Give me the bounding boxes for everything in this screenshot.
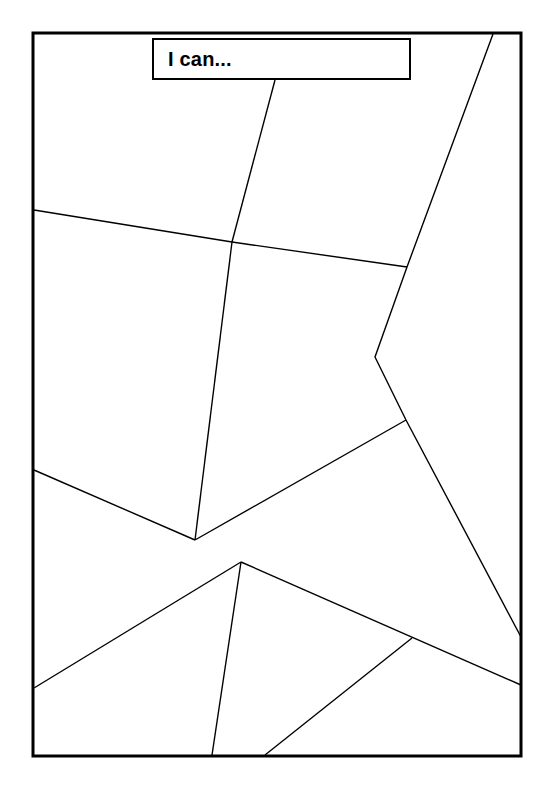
i-can-title-box: I can... bbox=[152, 38, 411, 80]
worksheet-page: I can... bbox=[0, 0, 556, 797]
i-can-title-label: I can... bbox=[154, 49, 232, 69]
outer-border bbox=[33, 33, 521, 756]
worksheet-canvas bbox=[0, 0, 556, 797]
